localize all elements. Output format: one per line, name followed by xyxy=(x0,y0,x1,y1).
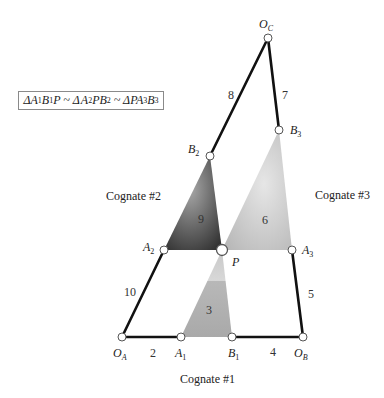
label-OA: OA xyxy=(113,346,127,362)
label-P: P xyxy=(231,255,240,269)
link-number-5: 5 xyxy=(308,287,314,301)
cognate-3-label: Cognate #3 xyxy=(315,188,370,202)
label-B1: B1 xyxy=(228,346,239,362)
pin-OC xyxy=(264,34,272,42)
link-7 xyxy=(268,38,279,130)
link-5 xyxy=(292,250,303,337)
link-number-4: 4 xyxy=(270,345,276,359)
link-number-10: 10 xyxy=(124,285,136,299)
label-A3: A3 xyxy=(301,243,313,259)
label-OC: OC xyxy=(259,17,274,33)
link-number-9: 9 xyxy=(198,212,204,226)
link-number-7: 7 xyxy=(282,88,288,102)
link-number-3: 3 xyxy=(206,303,212,317)
cognate-linkage-diagram: OC B2 B3 A2 P A3 OA A1 B1 OB 2 3 4 5 6 7… xyxy=(0,0,384,398)
pin-A1 xyxy=(177,333,185,341)
link-number-8: 8 xyxy=(228,88,234,102)
label-B3: B3 xyxy=(290,123,301,139)
cognate-2-label: Cognate #2 xyxy=(106,189,161,203)
pin-B1 xyxy=(228,333,236,341)
coupler-triangle-6 xyxy=(222,130,292,250)
coupler-triangle-9 xyxy=(164,156,222,250)
pin-B2 xyxy=(206,152,214,160)
pin-B3 xyxy=(275,126,283,134)
link-8 xyxy=(210,38,268,156)
link-number-6: 6 xyxy=(262,213,268,227)
link-number-2: 2 xyxy=(150,346,156,360)
label-A2: A2 xyxy=(142,240,154,256)
cognate-1-label: Cognate #1 xyxy=(180,372,235,386)
label-OB: OB xyxy=(294,346,308,362)
pin-OB xyxy=(299,333,307,341)
pin-OA xyxy=(118,333,126,341)
label-A1: A1 xyxy=(174,346,186,362)
coupler-triangle-3 xyxy=(181,250,232,337)
label-B2: B2 xyxy=(188,142,199,158)
pin-A3 xyxy=(288,246,296,254)
pin-P xyxy=(217,245,228,256)
pin-A2 xyxy=(160,246,168,254)
